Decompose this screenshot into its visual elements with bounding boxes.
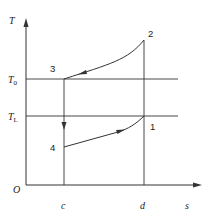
point-1-label: 1: [150, 121, 155, 132]
tl-label: TL: [8, 111, 18, 124]
origin-label: O: [13, 184, 20, 195]
ts-diagram: T s O T0 TL c d 1 2 3 4: [0, 0, 212, 216]
y-axis-arrow-icon: [24, 18, 29, 27]
x-axis-label: s: [185, 200, 189, 211]
process-2-3-arrow-icon: [78, 70, 87, 75]
y-axis-label: T: [9, 15, 16, 26]
process-4-1-curve: [64, 116, 144, 147]
c-label: c: [61, 200, 66, 211]
x-axis-arrow-icon: [193, 183, 202, 188]
point-2-label: 2: [148, 28, 153, 39]
point-3-label: 3: [50, 63, 55, 74]
process-2-3-curve: [64, 40, 144, 79]
point-4-label: 4: [50, 142, 55, 153]
axes: [26, 24, 196, 185]
d-label: d: [140, 200, 146, 211]
t0-label: T0: [8, 74, 18, 87]
process-4-1-arrow-icon: [116, 130, 125, 135]
process-3-4-arrow-icon: [62, 122, 67, 130]
